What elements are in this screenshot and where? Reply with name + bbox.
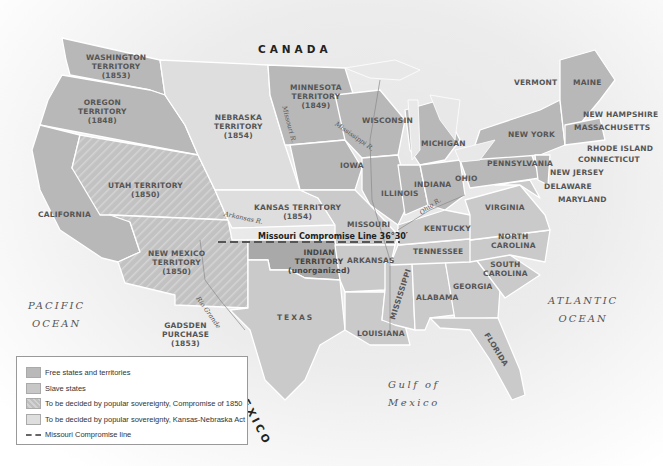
map-canvas: CANADA MEXICO PACIFIC OCEAN ATLANTIC OCE… bbox=[0, 0, 663, 466]
label-arkansas: ARKANSAS bbox=[347, 256, 395, 265]
label-new-jersey: NEW JERSEY bbox=[550, 168, 604, 177]
label-atlantic-ocean: ATLANTIC OCEAN bbox=[548, 292, 618, 328]
swatch-free bbox=[26, 367, 41, 378]
florida bbox=[430, 318, 525, 400]
lake-superior bbox=[345, 60, 420, 80]
label-kansas-territory: KANSAS TERRITORY (1854) bbox=[254, 203, 341, 221]
label-gulf-of-mexico: Gulf of Mexico bbox=[388, 376, 440, 412]
label-north-carolina: NORTH CAROLINA bbox=[491, 232, 536, 250]
label-alabama: ALABAMA bbox=[416, 293, 459, 302]
label-connecticut: CONNECTICUT bbox=[578, 155, 640, 164]
label-michigan: MICHIGAN bbox=[421, 139, 466, 148]
label-washington-territory: WASHINGTON TERRITORY (1853) bbox=[86, 53, 146, 80]
label-kentucky: KENTUCKY bbox=[424, 224, 471, 233]
legend-item-free: Free states and territories bbox=[26, 365, 247, 381]
label-ohio: OHIO bbox=[455, 174, 478, 183]
label-texas: TEXAS bbox=[277, 313, 314, 322]
label-indian-territory: INDIAN TERRITORY (unorganized) bbox=[288, 248, 350, 275]
legend-item-compromise-1850: To be decided by popular sovereignty, Co… bbox=[26, 396, 247, 412]
label-pennsylvania: PENNSYLVANIA bbox=[487, 159, 553, 168]
label-virginia: VIRGINIA bbox=[485, 203, 525, 212]
swatch-kansas-nebraska bbox=[26, 414, 41, 425]
swatch-slave bbox=[26, 383, 41, 394]
label-tennessee: TENNESSEE bbox=[413, 247, 463, 256]
label-missouri-compromise-line: Missouri Compromise Line 36°30′ bbox=[258, 232, 408, 241]
map-legend: Free states and territories Slave states… bbox=[16, 356, 248, 445]
label-new-hampshire: NEW HAMPSHIRE bbox=[583, 110, 658, 119]
label-rhode-island: RHODE ISLAND bbox=[587, 144, 653, 153]
label-missouri: MISSOURI bbox=[347, 220, 390, 229]
label-georgia: GEORGIA bbox=[453, 282, 493, 291]
legend-item-missouri-line: Missouri Compromise line bbox=[26, 427, 247, 443]
legend-item-kansas-nebraska: To be decided by popular sovereignty, Ka… bbox=[26, 412, 247, 428]
label-louisiana: LOUISIANA bbox=[357, 329, 405, 338]
label-gadsden-purchase: GADSDEN PURCHASE (1853) bbox=[162, 321, 209, 348]
label-oregon-territory: OREGON TERRITORY (1848) bbox=[78, 98, 127, 125]
label-canada: CANADA bbox=[258, 43, 332, 55]
label-maine: MAINE bbox=[573, 78, 601, 87]
legend-item-slave: Slave states bbox=[26, 381, 247, 397]
label-massachusetts: MASSACHUSETTS bbox=[574, 123, 650, 132]
label-california: CALIFORNIA bbox=[38, 210, 91, 219]
dashed-line-icon bbox=[26, 434, 41, 436]
label-illinois: ILLINOIS bbox=[381, 189, 419, 198]
label-vermont: VERMONT bbox=[514, 78, 557, 87]
label-utah-territory: UTAH TERRITORY (1850) bbox=[108, 181, 183, 199]
swatch-compromise-1850 bbox=[26, 398, 41, 409]
label-delaware: DELAWARE bbox=[544, 182, 592, 191]
label-south-carolina: SOUTH CAROLINA bbox=[483, 260, 528, 278]
label-pacific-ocean: PACIFIC OCEAN bbox=[28, 297, 85, 333]
lake-michigan bbox=[408, 100, 420, 160]
label-iowa: IOWA bbox=[340, 161, 364, 170]
label-minnesota-territory: MINNESOTA TERRITORY (1849) bbox=[290, 83, 342, 110]
label-new-york: NEW YORK bbox=[508, 130, 555, 139]
label-indiana: INDIANA bbox=[414, 180, 451, 189]
label-maryland: MARYLAND bbox=[558, 195, 607, 204]
label-nebraska-territory: NEBRASKA TERRITORY (1854) bbox=[214, 113, 263, 140]
label-wisconsin: WISCONSIN bbox=[362, 116, 413, 125]
label-new-mexico-territory: NEW MEXICO TERRITORY (1850) bbox=[148, 249, 205, 276]
